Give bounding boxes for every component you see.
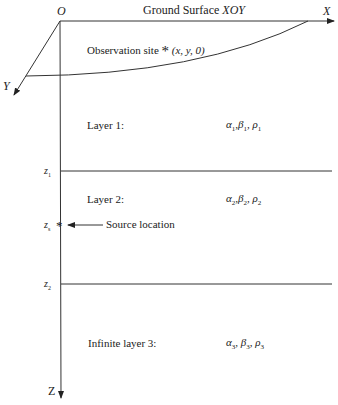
layer-1-name: Layer 1:: [87, 120, 124, 131]
layer-1-params: α1,β1, ρ1: [226, 119, 261, 133]
z-axis-label: Z: [48, 385, 55, 397]
layer-2-params: α2,β2, ρ2: [226, 193, 261, 207]
diagram-canvas: [0, 0, 338, 405]
depth-label-z1: z1: [44, 166, 51, 178]
observation-label: Observation site: [87, 44, 159, 56]
y-axis-label: Y: [3, 80, 10, 92]
observation-marker-icon: *: [162, 43, 170, 59]
layer-2-name: Layer 2:: [87, 194, 124, 205]
ground-surface-title: Ground Surface XOY: [143, 4, 245, 16]
depth-label-zs: zs: [44, 220, 50, 232]
x-axis-label: X: [323, 5, 330, 17]
observation-site: Observation site * (x, y, 0): [87, 42, 205, 57]
z-axis: [60, 21, 61, 398]
title-prefix: Ground Surface: [143, 3, 219, 17]
observation-coords: (x, y, 0): [172, 44, 205, 56]
layer-3-name: Infinite layer 3:: [88, 338, 156, 349]
source-location-label: Source location: [106, 219, 175, 230]
y-axis: [14, 21, 60, 95]
source-marker-icon: *: [56, 219, 63, 232]
title-plane: XOY: [222, 3, 245, 17]
layer-3-params: α3, β3, ρ3: [226, 337, 264, 351]
origin-label: O: [57, 5, 66, 17]
depth-label-z2: z2: [44, 279, 51, 291]
